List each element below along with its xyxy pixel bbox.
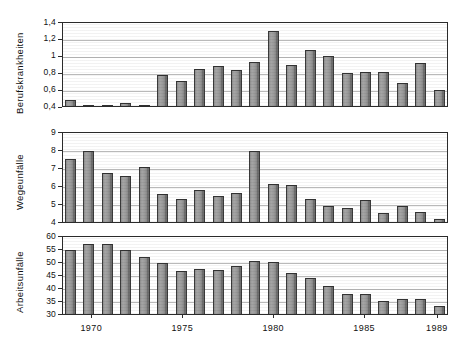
x-tick-mark <box>273 315 274 318</box>
bar <box>397 299 408 314</box>
y-tick-mark <box>58 107 62 108</box>
y-tick-label: 0,6 <box>28 85 56 93</box>
bar <box>139 167 150 222</box>
bar <box>342 73 353 106</box>
plot-area-arbeitsunfaelle <box>62 236 448 315</box>
x-tick-label: 1980 <box>253 323 293 333</box>
bar <box>397 83 408 106</box>
bar <box>286 185 297 222</box>
bar-series-arbeitsunfaelle <box>63 237 447 314</box>
bar <box>83 151 94 222</box>
y-axis-title-berufskrankheiten: Berufskrankheiten <box>14 32 25 114</box>
bar <box>249 62 260 106</box>
bar <box>157 263 168 315</box>
bar <box>194 190 205 222</box>
bar <box>415 299 426 314</box>
bar <box>194 69 205 106</box>
bar <box>323 206 334 222</box>
bar <box>83 244 94 314</box>
x-tick-label: 1985 <box>344 323 384 333</box>
bar <box>286 273 297 314</box>
y-tick-label: 40 <box>30 284 56 292</box>
bar <box>120 176 131 222</box>
x-tick-label: 1970 <box>71 323 111 333</box>
bar <box>65 159 76 222</box>
y-tick-label: 5 <box>34 200 56 208</box>
y-tick-label: 7 <box>34 164 56 172</box>
y-tick-label: 8 <box>34 146 56 154</box>
y-tick-label: 1,2 <box>28 34 56 42</box>
bar <box>176 199 187 222</box>
bar <box>157 75 168 106</box>
bar <box>139 105 150 107</box>
bar <box>231 193 242 222</box>
y-tick-label: 35 <box>30 297 56 305</box>
bar <box>286 65 297 106</box>
bar <box>139 257 150 314</box>
x-tick-mark <box>364 315 365 318</box>
y-tick-label: 30 <box>30 310 56 318</box>
bar <box>102 173 113 222</box>
bar <box>231 266 242 314</box>
y-axis-title-arbeitsunfaelle: Arbeitsunfälle <box>14 251 25 313</box>
y-tick-label: 6 <box>34 182 56 190</box>
bar <box>268 262 279 314</box>
bar <box>415 212 426 222</box>
bar <box>342 294 353 315</box>
bar <box>249 151 260 222</box>
y-tick-label: 0,8 <box>28 68 56 76</box>
y-tick-label: 55 <box>30 245 56 253</box>
bar <box>342 208 353 222</box>
bar <box>120 103 131 106</box>
x-tick-label: 1975 <box>162 323 202 333</box>
bar <box>157 194 168 222</box>
bar-series-berufskrankheiten <box>63 23 447 106</box>
bar <box>378 72 389 106</box>
bar <box>434 306 445 314</box>
y-tick-label: 45 <box>30 271 56 279</box>
y-tick-label: 60 <box>30 232 56 240</box>
bar <box>102 244 113 315</box>
y-tick-label: 4 <box>34 218 56 226</box>
bar-series-wegeunfaelle <box>63 133 447 222</box>
x-tick-mark <box>182 315 183 318</box>
bar <box>65 250 76 314</box>
bar <box>360 72 371 106</box>
bar <box>83 105 94 107</box>
bar <box>397 206 408 222</box>
y-tick-label: 1 <box>28 51 56 59</box>
plot-area-wegeunfaelle <box>62 132 448 223</box>
bar <box>176 81 187 106</box>
x-axis-ticks <box>62 315 448 319</box>
plot-area-berufskrankheiten <box>62 22 448 107</box>
y-tick-label: 9 <box>34 128 56 136</box>
bar <box>213 270 224 314</box>
bar <box>305 199 316 222</box>
bar <box>378 301 389 314</box>
bar <box>102 105 113 107</box>
x-tick-mark <box>437 315 438 318</box>
bar <box>415 63 426 106</box>
bar <box>323 286 334 314</box>
y-tick-label: 0,4 <box>28 102 56 110</box>
figure-three-panel-bar-chart: Berufskrankheiten 1,4 1,2 1 0,8 0,6 0,4 … <box>0 0 454 354</box>
x-tick-mark <box>91 315 92 318</box>
bar <box>268 31 279 106</box>
bar <box>249 261 260 314</box>
bar <box>213 66 224 107</box>
bar <box>176 271 187 315</box>
bar <box>305 50 316 106</box>
bar <box>378 213 389 222</box>
bar <box>360 294 371 315</box>
bar <box>434 90 445 106</box>
bar <box>194 269 205 314</box>
y-tick-label: 1,4 <box>28 18 56 26</box>
bar <box>231 70 242 106</box>
bar <box>268 184 279 222</box>
bar <box>213 196 224 222</box>
bar <box>305 278 316 314</box>
x-tick-label: 1989 <box>417 323 454 333</box>
y-tick-label: 50 <box>30 258 56 266</box>
bar <box>360 200 371 222</box>
bar <box>120 250 131 314</box>
